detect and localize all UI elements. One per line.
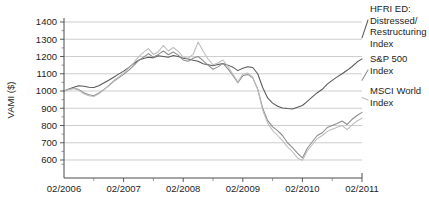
- legend-label-2-line-1: Index: [370, 97, 393, 108]
- legend-label-2-line-0: MSCI World: [370, 85, 421, 96]
- y-tick-label-1000: 1000: [36, 85, 57, 96]
- y-tick-label-700: 700: [41, 137, 57, 148]
- x-tick-label-02/2006: 02/2006: [47, 183, 81, 194]
- legend-label-0-line-2: Restructuring: [370, 26, 427, 37]
- x-tick-label-02/2011: 02/2011: [345, 183, 379, 194]
- legend-connector-0: [362, 20, 368, 38]
- y-tick-label-600: 600: [41, 154, 57, 165]
- chart-canvas: 60070080090010001100120013001400 02/2006…: [0, 0, 429, 207]
- x-tick-label-02/2009: 02/2009: [226, 183, 260, 194]
- y-tick-label-1200: 1200: [36, 51, 57, 62]
- y-tick-label-1300: 1300: [36, 34, 57, 45]
- y-axis-title: VAMI ($): [5, 82, 16, 119]
- y-axis-tick-labels: 60070080090010001100120013001400: [36, 16, 57, 165]
- legend-label-0-line-0: HFRI ED:: [370, 3, 411, 14]
- axes: [60, 18, 362, 182]
- y-tick-label-900: 900: [41, 103, 57, 114]
- legend-connector-2: [362, 98, 368, 100]
- legend-label-1-line-0: S&P 500: [370, 53, 407, 64]
- y-tick-label-1100: 1100: [37, 68, 57, 79]
- x-tick-label-02/2010: 02/2010: [285, 183, 319, 194]
- legend-label-0-line-3: Index: [370, 38, 393, 49]
- series-line-0: [64, 55, 362, 108]
- x-tick-label-02/2007: 02/2007: [106, 183, 140, 194]
- legend-connector-1: [362, 70, 368, 80]
- vami-line-chart: 60070080090010001100120013001400 02/2006…: [0, 0, 429, 207]
- legend: HFRI ED:Distressed/RestructuringIndexS&P…: [362, 3, 427, 108]
- series-line-1: [64, 51, 362, 158]
- legend-label-1-line-1: Index: [370, 65, 393, 76]
- x-axis-tick-labels: 02/200602/200702/200802/200902/201002/20…: [47, 183, 379, 194]
- x-tick-label-02/2008: 02/2008: [166, 183, 200, 194]
- legend-label-0-line-1: Distressed/: [370, 15, 418, 26]
- y-tick-label-1400: 1400: [36, 16, 57, 27]
- y-tick-label-800: 800: [41, 120, 57, 131]
